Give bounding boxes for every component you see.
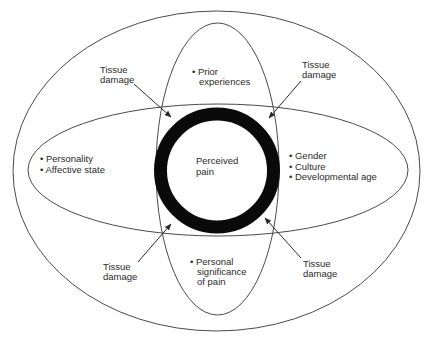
left-factor-personality: • Personality xyxy=(40,153,93,164)
pain-perception-diagram: Perceived pain • Personality • Affective… xyxy=(0,0,431,346)
right-factor-gender: • Gender xyxy=(289,150,327,161)
arrow-bottom-left xyxy=(138,224,171,262)
center-label-line2: pain xyxy=(196,166,214,177)
arrow-bottom-right xyxy=(265,218,301,258)
tissue-damage-bottom-left-line2: damage xyxy=(103,271,137,282)
left-factor-affective-state: • Affective state xyxy=(40,164,105,175)
tissue-damage-bottom-right-line2: damage xyxy=(303,268,337,279)
perceived-pain-ring xyxy=(161,114,274,227)
tissue-damage-top-right-line2: damage xyxy=(302,69,336,80)
right-factor-developmental-age: • Developmental age xyxy=(289,171,377,182)
bottom-factor-line3: of pain xyxy=(197,276,226,287)
arrow-top-right xyxy=(269,81,301,118)
right-factor-culture: • Culture xyxy=(289,161,326,172)
center-label-line1: Perceived xyxy=(196,155,238,166)
tissue-damage-top-left-line2: damage xyxy=(100,74,134,85)
top-factor-line2: experiences xyxy=(199,76,250,87)
